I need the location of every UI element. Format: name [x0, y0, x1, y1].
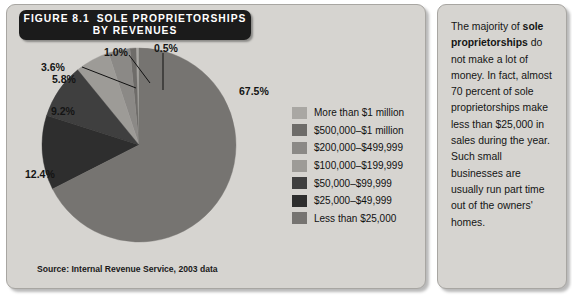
pie-label-5-8: 5.8%	[52, 73, 76, 85]
legend-item-label: $500,000–$1 million	[314, 125, 404, 136]
pie-label-3-6: 3.6%	[41, 61, 65, 73]
legend-item-label: $25,000–$49,999	[314, 195, 392, 206]
pie-label-67-5: 67.5%	[239, 85, 269, 97]
note-panel: The majority of sole proprietorships do …	[437, 4, 567, 289]
note-part2: do not make a lot of money. In fact, alm…	[451, 37, 552, 227]
legend-item-label: More than $1 million	[314, 107, 404, 118]
pie-label-12-4: 12.4%	[25, 168, 55, 180]
note-text: The majority of sole proprietorships do …	[451, 19, 555, 231]
legend-swatch-icon	[292, 160, 307, 172]
legend-swatch-icon	[292, 142, 307, 154]
pie-label-1-0: 1.0%	[104, 46, 128, 58]
legend-item-label: $50,000–$99,999	[314, 178, 392, 189]
legend-swatch-icon	[292, 107, 307, 119]
pie-label-9-2: 9.2%	[51, 105, 75, 117]
chart-legend: More than $1 million$500,000–$1 million$…	[292, 104, 404, 227]
legend-swatch-icon	[292, 195, 307, 207]
legend-item: $200,000–$499,999	[292, 139, 404, 157]
legend-item: Less than $25,000	[292, 210, 404, 228]
figure-source: Source: Internal Revenue Service, 2003 d…	[37, 264, 218, 274]
legend-swatch-icon	[292, 212, 307, 224]
legend-item-label: Less than $25,000	[314, 213, 396, 224]
legend-item: $25,000–$49,999	[292, 192, 404, 210]
legend-item: $100,000–$199,999	[292, 157, 404, 175]
legend-item: More than $1 million	[292, 104, 404, 122]
legend-swatch-icon	[292, 124, 307, 136]
legend-item: $500,000–$1 million	[292, 122, 404, 140]
note-part1: The majority of	[451, 21, 523, 32]
pie-label-0-5: 0.5%	[154, 42, 178, 54]
figure-panel: FIGURE 8.1SOLE PROPRIETORSHIPS BY REVENU…	[6, 4, 426, 289]
legend-item-label: $200,000–$499,999	[314, 142, 403, 153]
legend-swatch-icon	[292, 177, 307, 189]
legend-item: $50,000–$99,999	[292, 174, 404, 192]
figure-screenshot: FIGURE 8.1SOLE PROPRIETORSHIPS BY REVENU…	[0, 0, 572, 304]
legend-item-label: $100,000–$199,999	[314, 160, 403, 171]
